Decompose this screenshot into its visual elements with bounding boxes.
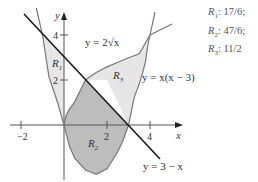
x-axis-label: x [175,129,181,141]
answer-r1: R1: 17/6; [208,5,245,24]
y-axis-label: y [54,9,60,21]
y-tick-label-2: 2 [53,75,58,86]
y-axis-arrow-icon [61,12,67,20]
x-tick-label-2: 2 [104,131,109,142]
x-tick-label-neg2: −2 [17,131,28,142]
y-tick-label-4: 4 [53,30,58,41]
x-tick-label-4: 4 [147,131,152,142]
answer-r3: R3: 11/2 [208,42,245,61]
answer-r2: R2: 47/6; [208,24,245,43]
label-parabola: y = x(x − 3) [142,71,195,84]
label-line: y = 3 − x [143,160,183,172]
label-sqrt: y = 2√x [85,36,120,48]
x-axis-arrow-icon [175,122,183,128]
answers-panel: R1: 17/6; R2: 47/6; R3: 11/2 [208,5,245,61]
